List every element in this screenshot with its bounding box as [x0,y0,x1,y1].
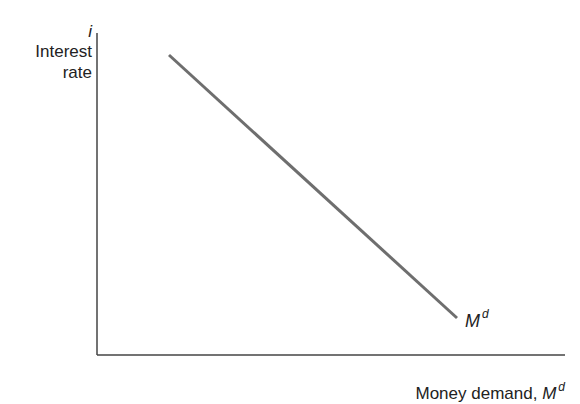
y-axis-symbol: i [88,21,92,42]
y-axis-label-line1: Interest [35,41,92,62]
x-axis-label: Money demand, Md [406,364,565,404]
x-axis-label-symbol: M [542,384,556,403]
money-demand-curve [169,55,457,318]
curve-label: Md [465,311,489,332]
x-axis-label-text: Money demand, [416,384,543,403]
curve-label-symbol: M [465,311,480,331]
curve-label-sup: d [482,307,489,321]
x-axis-label-sup: d [558,380,565,394]
y-axis-label-line2: rate [63,62,92,83]
